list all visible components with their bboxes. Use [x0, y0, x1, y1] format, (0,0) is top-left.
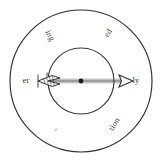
affix-label-ed: ed: [102, 27, 114, 39]
arrow-group: [38, 73, 133, 88]
affix-label-tion: tion: [107, 116, 122, 132]
affix-label-er: er: [22, 75, 29, 85]
affix-label-s: s: [53, 127, 61, 133]
concentric-circles-arrow-diagram: ing ed ly tion s er: [0, 0, 162, 162]
diagram-canvas: ing ed ly tion s er: [0, 0, 162, 162]
affix-label-ly: ly: [132, 75, 140, 85]
affix-label-ing: ing: [43, 29, 56, 43]
center-point-marker: [79, 79, 84, 84]
arrow-head-icon: [119, 75, 133, 87]
